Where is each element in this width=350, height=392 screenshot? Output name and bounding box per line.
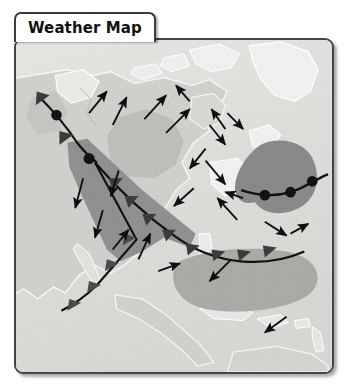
weather-map-panel[interactable] xyxy=(14,38,334,374)
texture-overlay xyxy=(16,40,332,372)
panel-title: Weather Map xyxy=(28,21,142,36)
weather-map-canvas xyxy=(16,40,332,372)
weather-map-widget: Weather Map xyxy=(0,0,350,392)
weather-map-tab[interactable]: Weather Map xyxy=(14,12,156,42)
